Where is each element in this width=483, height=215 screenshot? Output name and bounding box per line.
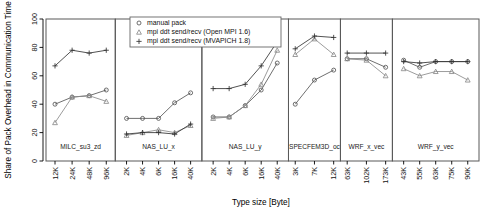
y-tick-label: 0 [30, 159, 39, 163]
x-tick-label: 2K [209, 167, 218, 176]
series-plus [52, 48, 108, 69]
x-tick-label: 6K [241, 167, 250, 176]
series-plus [345, 50, 389, 55]
x-tick-label: 16K [170, 167, 179, 180]
panel-wrf-y-vec: 43K55K63K75K90KWRF_y_vec [392, 19, 479, 180]
y-tick-label: 80 [30, 43, 39, 51]
series-line [213, 42, 277, 89]
series-circle [293, 68, 335, 106]
x-tick-label: 75K [447, 167, 456, 180]
x-tick-label: 3K [291, 167, 300, 176]
panel-label: NAS_LU_x [142, 143, 175, 151]
x-tick-label: 40K [186, 167, 195, 180]
panel-label: MILC_su3_zd [60, 143, 101, 151]
series-line [55, 90, 106, 104]
y-axis-title: Share of Pack Overhead in Communication … [4, 1, 13, 179]
legend: manual packmpi ddt send/recv (Open MPI 1… [130, 17, 281, 47]
x-tick-label: 6K [154, 167, 163, 176]
series-line [127, 93, 191, 119]
x-tick-label: 63K [431, 167, 440, 180]
legend-label: manual pack [147, 19, 187, 27]
panel-label: WRF_y_vec [418, 143, 455, 151]
y-tick-label: 100 [30, 13, 39, 25]
panel-border [340, 19, 392, 161]
x-tick-label: 4K [138, 167, 147, 176]
series-plus [293, 33, 337, 51]
series-circle [211, 61, 279, 119]
x-tick-label: 16K [257, 167, 266, 180]
legend-label: mpi ddt send/recv (Open MPI 1.6) [147, 28, 250, 36]
chart-figure: 020406080100Share of Pack Overhead in Co… [0, 0, 483, 215]
panel-border [46, 19, 115, 161]
y-tick-label: 60 [30, 72, 39, 80]
series-triangle [401, 66, 470, 82]
y-axis: 020406080100 [30, 13, 43, 163]
data-point [275, 48, 280, 52]
x-tick-label: 12K [51, 167, 60, 180]
panel-border [288, 19, 340, 161]
x-tick-label: 7K [310, 167, 319, 176]
x-tick-label: 40K [273, 167, 282, 180]
x-tick-label: 102K [362, 167, 371, 184]
x-tick-label: 63K [343, 167, 352, 180]
legend-label: mpi ddt send/recv (MVAPICH 1.8) [147, 37, 250, 45]
panel-border [392, 19, 479, 161]
series-line [295, 70, 333, 104]
x-tick-label: 4K [225, 167, 234, 176]
series-line [347, 59, 385, 76]
panel-label: NAS_LU_y [229, 143, 262, 151]
y-tick-label: 40 [30, 100, 39, 108]
x-tick-label: 43K [399, 167, 408, 180]
series-triangle [345, 56, 388, 77]
multi-panel-line-chart: 020406080100Share of Pack Overhead in Co… [0, 0, 483, 215]
x-tick-label: 24K [68, 167, 77, 180]
x-tick-label: 2K [122, 167, 131, 176]
series-circle [53, 88, 108, 106]
panel-specfem3d-oc: 3K7K12KSPECFEM3D_oc [288, 19, 340, 180]
panel-wrf-x-vec: 63K102K173KWRF_x_vec [340, 19, 392, 184]
series-line [404, 69, 468, 80]
panel-milc-su3-zd: 12K24K48K96KMILC_su3_zd [46, 19, 115, 180]
series-line [55, 50, 106, 66]
x-tick-label: 55K [415, 167, 424, 180]
x-tick-label: 96K [102, 167, 111, 180]
panel-label: SPECFEM3D_oc [289, 143, 341, 151]
panel-label: WRF_x_vec [348, 143, 385, 151]
x-tick-label: 48K [85, 167, 94, 180]
series-plus [401, 59, 470, 66]
data-point [401, 66, 406, 70]
x-axis-title: Type size [Byte] [232, 198, 290, 207]
x-tick-label: 173K [381, 167, 390, 184]
series-triangle [53, 93, 109, 124]
y-tick-label: 20 [30, 129, 39, 137]
series-line [55, 96, 106, 123]
x-tick-label: 12K [329, 167, 338, 180]
x-tick-label: 90K [463, 167, 472, 180]
series-circle [125, 91, 193, 121]
